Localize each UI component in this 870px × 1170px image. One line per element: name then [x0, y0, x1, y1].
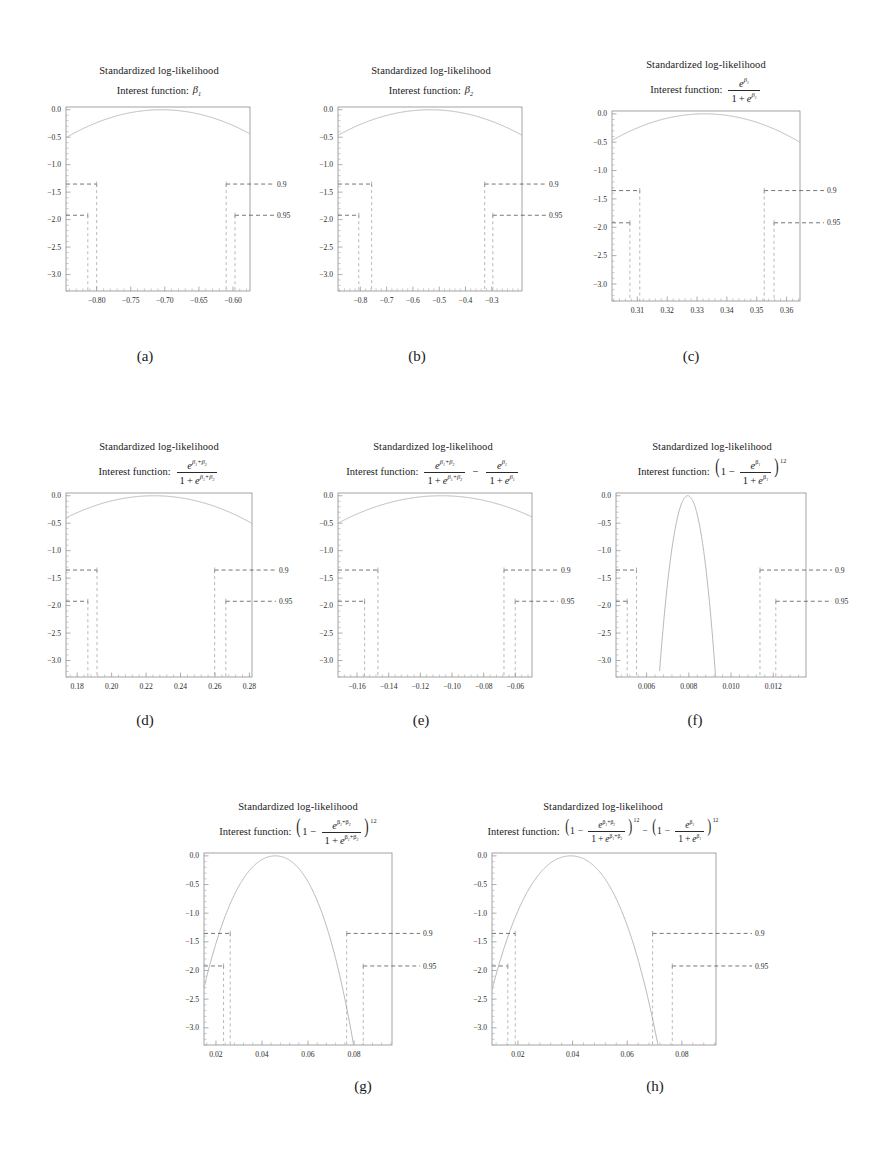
svg-text:0.35: 0.35 — [750, 306, 763, 315]
svg-text:−3.0: −3.0 — [593, 280, 607, 289]
panel-b-titles: Standardized log-likelihood Interest fun… — [300, 64, 562, 99]
panel-h-subtitle: Interest function: ( 1− eβ1+β21 + eβ1+β2… — [438, 819, 768, 845]
interest-function-expression: β2 — [465, 83, 473, 99]
svg-text:0.32: 0.32 — [661, 306, 674, 315]
svg-text:−0.80: −0.80 — [88, 295, 106, 304]
svg-text:0.95: 0.95 — [277, 211, 290, 220]
panel-f-plot: 0.0−0.5−1.0−1.5−2.0−2.5−3.00.0060.0080.0… — [576, 485, 848, 707]
svg-text:0.95: 0.95 — [549, 211, 562, 220]
panel-b-title: Standardized log-likelihood — [300, 64, 562, 78]
svg-text:−1.0: −1.0 — [593, 166, 607, 175]
svg-text:0.9: 0.9 — [549, 179, 559, 188]
svg-text:0.0: 0.0 — [52, 105, 62, 114]
caption-g: (g) — [308, 1078, 418, 1095]
svg-text:−2.0: −2.0 — [47, 601, 61, 610]
svg-text:−0.8: −0.8 — [353, 295, 367, 304]
interest-function-label: Interest function: — [219, 825, 291, 839]
svg-text:0.010: 0.010 — [723, 682, 740, 691]
svg-text:0.95: 0.95 — [755, 961, 768, 970]
svg-text:−2.5: −2.5 — [185, 995, 199, 1004]
svg-text:−0.60: −0.60 — [224, 295, 242, 304]
svg-text:0.26: 0.26 — [208, 682, 221, 691]
svg-text:0.9: 0.9 — [755, 929, 765, 938]
svg-text:−1.0: −1.0 — [597, 546, 611, 555]
svg-text:0.08: 0.08 — [347, 1050, 360, 1059]
svg-text:−0.06: −0.06 — [507, 682, 525, 691]
svg-text:0.9: 0.9 — [561, 566, 571, 575]
svg-text:−0.70: −0.70 — [156, 295, 174, 304]
svg-text:−1.5: −1.5 — [473, 937, 487, 946]
svg-text:0.02: 0.02 — [209, 1050, 222, 1059]
svg-text:0.9: 0.9 — [279, 566, 289, 575]
panel-h-title: Standardized log-likelihood — [438, 800, 768, 814]
panel-f-titles: Standardized log-likelihood Interest fun… — [576, 440, 848, 485]
svg-text:−0.5: −0.5 — [432, 295, 446, 304]
svg-text:−1.5: −1.5 — [593, 195, 607, 204]
interest-function-expression: ( 1− eβ1+β21 + eβ1+β2 )12 — [295, 819, 376, 845]
panel-c-subtitle: Interest function: eβ11 + eβ1 — [572, 77, 840, 103]
interest-function-expression: eβ1+β21 + eβ1+β2 − eβ11 + eβ1 — [422, 459, 519, 485]
panel-h-titles: Standardized log-likelihood Interest fun… — [438, 800, 768, 845]
svg-text:0.0: 0.0 — [324, 105, 334, 114]
panel-g: Standardized log-likelihood Interest fun… — [160, 800, 436, 1075]
panel-c-titles: Standardized log-likelihood Interest fun… — [572, 58, 840, 103]
panel-d-title: Standardized log-likelihood — [26, 440, 292, 454]
interest-function-expression: ( 1− eβ1+β21 + eβ1+β2 )12 − ( 1− eβ11 + … — [564, 819, 719, 845]
panel-e-title: Standardized log-likelihood — [292, 440, 574, 454]
svg-text:−1.5: −1.5 — [597, 574, 611, 583]
panel-d-subtitle: Interest function: eβ1+β21 + eβ1+β2 — [26, 459, 292, 485]
svg-text:0.28: 0.28 — [243, 682, 256, 691]
svg-text:0.9: 0.9 — [277, 179, 287, 188]
panel-e-titles: Standardized log-likelihood Interest fun… — [292, 440, 574, 485]
interest-function-expression: β1 — [193, 83, 201, 99]
svg-text:−2.0: −2.0 — [597, 601, 611, 610]
panel-d: Standardized log-likelihood Interest fun… — [26, 440, 292, 707]
svg-text:−2.0: −2.0 — [319, 601, 333, 610]
svg-text:−0.5: −0.5 — [319, 519, 333, 528]
svg-text:−3.0: −3.0 — [319, 656, 333, 665]
svg-text:0.22: 0.22 — [139, 682, 152, 691]
svg-text:0.0: 0.0 — [190, 852, 200, 861]
panel-e: Standardized log-likelihood Interest fun… — [292, 440, 574, 707]
svg-text:0.04: 0.04 — [255, 1050, 268, 1059]
interest-function-label: Interest function: — [389, 84, 461, 98]
svg-text:−2.5: −2.5 — [47, 629, 61, 638]
svg-text:−1.5: −1.5 — [47, 574, 61, 583]
panel-f-subtitle: Interest function: ( 1− eβ11 + eβ1 )12 — [576, 459, 848, 485]
svg-text:−0.7: −0.7 — [380, 295, 394, 304]
svg-text:0.012: 0.012 — [765, 682, 782, 691]
svg-text:−2.0: −2.0 — [185, 966, 199, 975]
caption-b: (b) — [362, 348, 472, 365]
svg-text:−0.14: −0.14 — [380, 682, 398, 691]
svg-text:−0.75: −0.75 — [122, 295, 140, 304]
svg-text:−1.5: −1.5 — [47, 187, 61, 196]
panel-d-plot: 0.0−0.5−1.0−1.5−2.0−2.5−3.00.180.200.220… — [26, 485, 292, 707]
svg-text:−0.10: −0.10 — [443, 682, 461, 691]
svg-text:−0.5: −0.5 — [185, 880, 199, 889]
svg-text:−0.16: −0.16 — [348, 682, 366, 691]
panel-g-subtitle: Interest function: ( 1− eβ1+β21 + eβ1+β2… — [160, 819, 436, 845]
svg-text:0.008: 0.008 — [680, 682, 697, 691]
svg-text:−3.0: −3.0 — [47, 656, 61, 665]
svg-text:−0.5: −0.5 — [47, 519, 61, 528]
panel-a-plot: 0.0−0.5−1.0−1.5−2.0−2.5−3.0−0.80−0.75−0.… — [28, 99, 290, 321]
svg-text:0.95: 0.95 — [827, 219, 840, 228]
svg-text:−2.5: −2.5 — [319, 242, 333, 251]
svg-text:−1.0: −1.0 — [319, 160, 333, 169]
caption-a: (a) — [90, 348, 200, 365]
panel-a-titles: Standardized log-likelihood Interest fun… — [28, 64, 290, 99]
svg-text:0.20: 0.20 — [105, 682, 118, 691]
svg-text:0.06: 0.06 — [621, 1049, 634, 1058]
svg-text:0.33: 0.33 — [690, 306, 703, 315]
caption-f: (f) — [640, 712, 750, 729]
svg-text:−2.0: −2.0 — [593, 223, 607, 232]
svg-text:0.04: 0.04 — [566, 1049, 579, 1058]
svg-text:−1.5: −1.5 — [185, 938, 199, 947]
panel-c-plot: 0.0−0.5−1.0−1.5−2.0−2.5−3.00.310.320.330… — [572, 103, 840, 331]
interest-function-label: Interest function: — [638, 465, 710, 479]
caption-h: (h) — [600, 1078, 710, 1095]
panel-a-title: Standardized log-likelihood — [28, 64, 290, 78]
interest-function-label: Interest function: — [346, 465, 418, 479]
panel-h-plot: 0.0−0.5−1.0−1.5−2.0−2.5−3.00.020.040.060… — [438, 845, 768, 1075]
svg-text:−2.0: −2.0 — [47, 215, 61, 224]
